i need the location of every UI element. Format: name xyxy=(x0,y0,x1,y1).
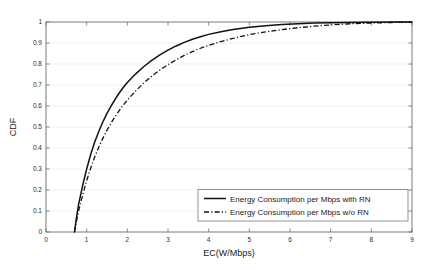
legend-label-without-rn: Energy Consumption per Mbps w/o RN xyxy=(230,208,369,217)
x-tick-label: 5 xyxy=(248,236,252,243)
y-axis-tick-labels: 00.10.20.30.40.50.60.70.80.91 xyxy=(33,18,42,235)
y-tick-label: 1 xyxy=(38,18,42,25)
y-tick-label: 0.9 xyxy=(33,39,42,46)
y-tick-label: 0 xyxy=(38,228,42,235)
y-tick-label: 0.8 xyxy=(33,60,42,67)
x-tick-label: 1 xyxy=(85,236,89,243)
x-axis-tick-labels: 0123456789 xyxy=(44,236,414,243)
x-axis-title: EC(W/Mbps) xyxy=(203,248,255,258)
x-tick-label: 6 xyxy=(288,236,292,243)
legend-label-with-rn: Energy Consumption per Mbps with RN xyxy=(230,195,371,204)
y-tick-label: 0.7 xyxy=(33,81,42,88)
x-tick-label: 2 xyxy=(126,236,130,243)
y-tick-label: 0.4 xyxy=(33,144,42,151)
y-tick-label: 0.5 xyxy=(33,123,42,130)
cdf-chart: 0123456789 00.10.20.30.40.50.60.70.80.91… xyxy=(0,0,429,270)
figure-container: 0123456789 00.10.20.30.40.50.60.70.80.91… xyxy=(0,0,429,270)
chart-legend: Energy Consumption per Mbps with RN Ener… xyxy=(198,190,408,222)
y-tick-label: 0.3 xyxy=(33,165,42,172)
y-tick-label: 0.6 xyxy=(33,102,42,109)
x-tick-label: 0 xyxy=(44,236,48,243)
x-tick-label: 8 xyxy=(370,236,374,243)
x-tick-label: 7 xyxy=(329,236,333,243)
y-tick-label: 0.2 xyxy=(33,186,42,193)
y-tick-label: 0.1 xyxy=(33,207,42,214)
x-tick-label: 3 xyxy=(166,236,170,243)
x-tick-label: 4 xyxy=(207,236,211,243)
x-tick-label: 9 xyxy=(410,236,414,243)
y-axis-title: CDF xyxy=(8,117,18,136)
